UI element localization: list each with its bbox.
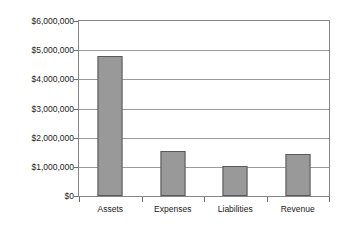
x-axis-category-label: Liabilities — [218, 204, 253, 214]
y-axis-tick-label: $1,000,000 — [31, 163, 74, 172]
y-tick-mark — [74, 79, 78, 80]
bars-layer — [79, 21, 329, 196]
bar-liabilities[interactable] — [223, 166, 248, 196]
y-axis-tick-label: $3,000,000 — [31, 104, 74, 113]
x-axis-category-label: Assets — [97, 204, 123, 214]
x-tick-mark — [79, 197, 80, 202]
y-axis-tick-label: $0 — [65, 192, 74, 201]
y-axis-tick-label: $2,000,000 — [31, 133, 74, 142]
x-tick-mark — [267, 197, 268, 202]
bar-slot — [204, 21, 267, 196]
bar-slot — [142, 21, 205, 196]
y-tick-mark — [74, 21, 78, 22]
y-tick-mark — [74, 196, 78, 197]
y-axis-tick-label: $5,000,000 — [31, 46, 74, 55]
x-tick-mark — [142, 197, 143, 202]
y-tick-mark — [74, 167, 78, 168]
bar-slot — [267, 21, 330, 196]
bar-slot — [79, 21, 142, 196]
y-axis-tick-label: $4,000,000 — [31, 75, 74, 84]
x-tick-mark — [204, 197, 205, 202]
y-tick-mark — [74, 50, 78, 51]
x-tick-mark — [329, 197, 330, 202]
bar-expenses[interactable] — [160, 151, 185, 196]
y-tick-mark — [74, 138, 78, 139]
x-axis-category-label: Revenue — [281, 204, 315, 214]
bar-assets[interactable] — [98, 56, 123, 196]
y-axis-tick-label: $6,000,000 — [31, 17, 74, 26]
y-tick-mark — [74, 109, 78, 110]
bar-revenue[interactable] — [285, 154, 310, 196]
x-axis-category-label: Expenses — [154, 204, 191, 214]
bar-chart-figure: $0$1,000,000$2,000,000$3,000,000$4,000,0… — [0, 0, 348, 228]
